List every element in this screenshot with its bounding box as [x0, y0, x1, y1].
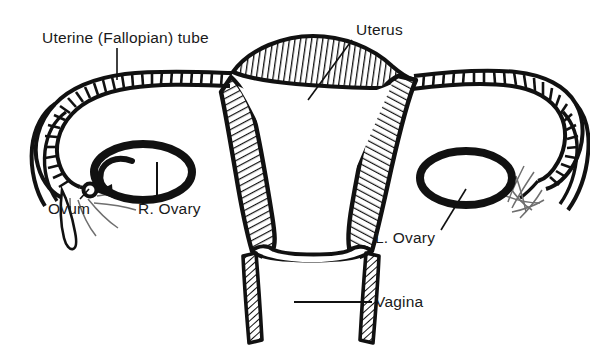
anatomy-figure: Uterine (Fallopian) tube Uterus Ovum R. … [0, 0, 590, 354]
label-uterine-tube: Uterine (Fallopian) tube [42, 30, 209, 46]
label-uterus: Uterus [356, 22, 403, 38]
left-ovary [420, 151, 512, 205]
label-left-ovary: L. Ovary [375, 230, 435, 246]
anatomy-illustration [0, 0, 590, 354]
label-vagina: Vagina [375, 294, 423, 310]
ovum-circle [84, 184, 97, 197]
label-right-ovary: R. Ovary [138, 201, 201, 217]
vaginal-canal [262, 258, 360, 340]
label-ovum: Ovum [48, 201, 90, 217]
